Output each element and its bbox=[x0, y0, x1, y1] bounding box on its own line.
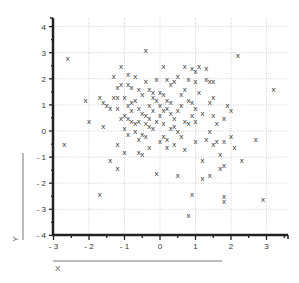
data-point-x-marker: x bbox=[130, 106, 134, 115]
x-tick-label: 1 bbox=[193, 242, 198, 251]
data-point-x-marker: x bbox=[208, 171, 212, 180]
data-point-x-marker: x bbox=[169, 124, 173, 133]
data-point-x-marker: x bbox=[66, 54, 70, 63]
y-tick-label: 1 bbox=[42, 101, 47, 110]
data-point-x-marker: x bbox=[115, 164, 119, 173]
data-point-x-marker: x bbox=[130, 83, 134, 92]
data-point-x-marker: x bbox=[144, 46, 148, 55]
data-point-x-marker: x bbox=[201, 174, 205, 183]
data-point-x-marker: x bbox=[190, 190, 194, 199]
data-point-x-marker: x bbox=[208, 127, 212, 136]
data-point-x-marker: x bbox=[108, 104, 112, 113]
x-tick-label: - 1 bbox=[120, 242, 130, 251]
data-point-x-marker: x bbox=[179, 101, 183, 110]
tick-labels: - 4- 3- 2- 101234- 3- 2- 10123 bbox=[37, 23, 270, 251]
data-point-x-marker: x bbox=[222, 197, 226, 206]
y-tick-label: - 4 bbox=[37, 231, 47, 240]
data-point-x-marker: x bbox=[236, 51, 240, 60]
data-point-x-marker: x bbox=[137, 117, 141, 126]
data-point-x-marker: x bbox=[272, 85, 276, 94]
y-tick-label: 0 bbox=[42, 127, 47, 136]
data-point-x-marker: x bbox=[211, 93, 215, 102]
data-point-x-marker: x bbox=[119, 62, 123, 71]
data-point-x-marker: x bbox=[137, 135, 141, 144]
data-point-x-marker: x bbox=[194, 137, 198, 146]
data-point-x-marker: x bbox=[261, 195, 265, 204]
data-point-x-marker: x bbox=[179, 132, 183, 141]
data-point-x-marker: x bbox=[115, 93, 119, 102]
data-point-x-marker: x bbox=[119, 80, 123, 89]
data-point-x-marker: x bbox=[151, 124, 155, 133]
data-point-x-marker: x bbox=[204, 64, 208, 73]
y-tick-label: - 3 bbox=[37, 205, 47, 214]
data-point-x-marker: x bbox=[133, 72, 137, 81]
x-tick-label: 2 bbox=[229, 242, 234, 251]
data-points: xxxxxxxxxxxxxxxxxxxxxxxxxxxxxxxxxxxxxxxx… bbox=[62, 46, 275, 219]
data-point-x-marker: x bbox=[218, 150, 222, 159]
data-point-x-marker: x bbox=[222, 137, 226, 146]
data-point-x-marker: x bbox=[201, 109, 205, 118]
data-point-x-marker: x bbox=[183, 62, 187, 71]
scatter-chart: xxxxxxxxxxxxxxxxxxxxxxxxxxxxxxxxxxxxxxxx… bbox=[0, 0, 299, 283]
data-point-x-marker: x bbox=[186, 75, 190, 84]
data-point-x-marker: x bbox=[215, 119, 219, 128]
data-point-x-marker: x bbox=[222, 114, 226, 123]
data-point-x-marker: x bbox=[101, 122, 105, 131]
data-point-x-marker: x bbox=[126, 130, 130, 139]
data-point-x-marker: x bbox=[222, 161, 226, 170]
data-point-x-marker: x bbox=[151, 93, 155, 102]
data-point-x-marker: x bbox=[115, 104, 119, 113]
x-tick-label: 0 bbox=[158, 242, 163, 251]
data-point-x-marker: x bbox=[144, 132, 148, 141]
data-point-x-marker: x bbox=[186, 119, 190, 128]
data-point-x-marker: x bbox=[154, 75, 158, 84]
data-point-x-marker: x bbox=[83, 96, 87, 105]
x-tick-label: - 3 bbox=[49, 242, 59, 251]
data-point-x-marker: x bbox=[151, 106, 155, 115]
data-point-x-marker: x bbox=[229, 106, 233, 115]
data-point-x-marker: x bbox=[215, 137, 219, 146]
y-tick-label: 4 bbox=[42, 23, 47, 32]
data-point-x-marker: x bbox=[87, 117, 91, 126]
data-point-x-marker: x bbox=[115, 140, 119, 149]
data-point-x-marker: x bbox=[197, 62, 201, 71]
y-tick-label: - 1 bbox=[37, 153, 47, 162]
data-point-x-marker: x bbox=[62, 140, 66, 149]
x-axis-label: X bbox=[55, 264, 61, 273]
data-point-x-marker: x bbox=[197, 88, 201, 97]
data-point-x-marker: x bbox=[183, 85, 187, 94]
data-point-x-marker: x bbox=[108, 156, 112, 165]
data-point-x-marker: x bbox=[126, 70, 130, 79]
y-tick-label: 3 bbox=[42, 49, 47, 58]
data-point-x-marker: x bbox=[165, 143, 169, 152]
y-axis-label: Y bbox=[11, 236, 20, 242]
data-point-x-marker: x bbox=[204, 135, 208, 144]
data-point-x-marker: x bbox=[186, 211, 190, 220]
data-point-x-marker: x bbox=[172, 140, 176, 149]
data-point-x-marker: x bbox=[162, 119, 166, 128]
data-point-x-marker: x bbox=[176, 171, 180, 180]
x-tick-label: - 2 bbox=[84, 242, 94, 251]
data-point-x-marker: x bbox=[190, 111, 194, 120]
data-point-x-marker: x bbox=[112, 72, 116, 81]
data-point-x-marker: x bbox=[194, 104, 198, 113]
data-point-x-marker: x bbox=[211, 77, 215, 86]
data-point-x-marker: x bbox=[183, 145, 187, 154]
y-tick-label: - 2 bbox=[37, 179, 47, 188]
data-point-x-marker: x bbox=[194, 117, 198, 126]
data-point-x-marker: x bbox=[254, 135, 258, 144]
data-point-x-marker: x bbox=[169, 98, 173, 107]
data-point-x-marker: x bbox=[240, 156, 244, 165]
data-point-x-marker: x bbox=[98, 190, 102, 199]
data-point-x-marker: x bbox=[140, 90, 144, 99]
data-point-x-marker: x bbox=[201, 156, 205, 165]
data-point-x-marker: x bbox=[229, 132, 233, 141]
data-point-x-marker: x bbox=[183, 117, 187, 126]
data-point-x-marker: x bbox=[123, 148, 127, 157]
data-point-x-marker: x bbox=[147, 143, 151, 152]
data-point-x-marker: x bbox=[233, 143, 237, 152]
data-point-x-marker: x bbox=[162, 62, 166, 71]
data-point-x-marker: x bbox=[158, 137, 162, 146]
data-point-x-marker: x bbox=[176, 72, 180, 81]
data-point-x-marker: x bbox=[194, 77, 198, 86]
